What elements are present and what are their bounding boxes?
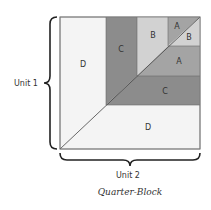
label-a-small: A <box>174 22 180 31</box>
label-d-bottom: D <box>145 123 151 132</box>
label-d-left: D <box>80 60 86 69</box>
quarter-block-diagram: D D C C B A A B Unit 1 Unit 2 Quarter-Bl… <box>0 0 211 210</box>
label-c-horizontal: C <box>162 87 168 96</box>
label-a-horizontal: A <box>176 57 182 66</box>
bottom-brace-icon <box>60 153 200 166</box>
left-brace-icon <box>44 17 57 149</box>
unit-2-label: Unit 2 <box>116 171 140 180</box>
unit-1-label: Unit 1 <box>14 79 38 88</box>
label-b-vertical: B <box>150 31 156 40</box>
caption: Quarter-Block <box>98 187 163 197</box>
label-b-small: B <box>186 33 192 42</box>
label-c-vertical: C <box>118 45 124 54</box>
